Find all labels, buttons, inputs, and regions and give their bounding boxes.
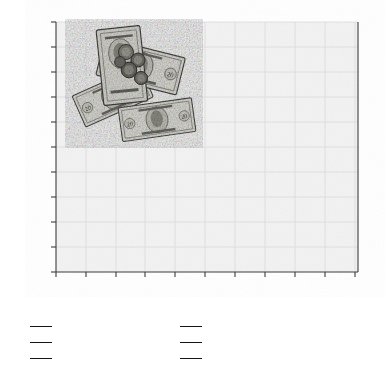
legend-item-latin-america-caribbean[interactable]: [0, 350, 168, 366]
legend-swatch-icon: [30, 326, 52, 327]
chart-figure: 20 20: [0, 0, 385, 368]
legend-swatch-icon: [180, 326, 202, 327]
legend-swatch-icon: [30, 342, 52, 343]
legend-item-east-asia-pacific[interactable]: [168, 318, 385, 334]
legend-item-middle-east-north-africa[interactable]: [168, 334, 385, 350]
legend-swatch-icon: [180, 358, 202, 359]
legend-swatch-icon: [30, 358, 52, 359]
legend-swatch-icon: [180, 342, 202, 343]
y-axis-ticks: [51, 22, 56, 272]
chart-legend: [0, 318, 385, 366]
line-chart: 20 20: [0, 0, 385, 368]
legend-item-european-union[interactable]: [0, 334, 168, 350]
legend-item-north-america[interactable]: [0, 318, 168, 334]
x-axis-ticks: [56, 272, 355, 277]
legend-item-south-asia[interactable]: [168, 350, 385, 366]
